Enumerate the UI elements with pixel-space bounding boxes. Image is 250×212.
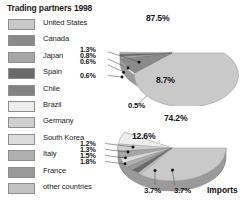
slice-imports-spain [133, 148, 173, 173]
legend-item-united-states: United States [8, 17, 108, 33]
legend-label-japan: Japan [43, 51, 63, 60]
legend-label-spain: Spain [43, 67, 62, 76]
legend-label-italy: Italy [43, 149, 56, 158]
legend-label-other-countries: other countries [43, 182, 92, 191]
legend-label-germany: Germany [43, 116, 74, 125]
legend-swatch-united-states [8, 19, 35, 30]
slice-imports-italy [124, 148, 172, 167]
slice-exports-japan [120, 53, 172, 59]
slice-exports-spain [120, 53, 172, 56]
leader-line-imports-6 [172, 170, 175, 185]
legend-swatch-japan [8, 52, 35, 63]
leader-dot-imports-5 [154, 169, 157, 172]
imports-callout-4: 1.8% [80, 157, 96, 166]
imports-second-percent: 12.6% [132, 131, 155, 141]
leader-dot-imports-6 [171, 169, 174, 172]
slice-exports-united-states [134, 53, 238, 107]
leader-dot-imports-3 [124, 156, 127, 159]
legend-item-chile: Chile [8, 83, 108, 99]
legend-swatch-spain [8, 68, 35, 79]
leader-dot-imports-1 [132, 146, 135, 149]
legend-swatch-brazil [8, 101, 35, 112]
legend-swatch-canada [8, 35, 35, 46]
slice-imports-south-korea [121, 148, 172, 163]
imports-pie-graphic [98, 93, 226, 191]
legend-swatch-south-korea [8, 134, 35, 145]
trading-partners-figure: Trading partners 1998 United States Cana… [0, 0, 250, 212]
legend-swatch-other-countries [8, 183, 35, 194]
imports-caption: Imports [207, 185, 238, 195]
legend-item-france: France [8, 165, 108, 181]
exports-second-percent: 8.7% [156, 75, 175, 85]
imports-top-callout: 0.5% [128, 101, 145, 110]
leader-dot-exports-1 [138, 61, 141, 64]
legend-item-other-countries: other countries [8, 181, 108, 197]
legend-label-brazil: Brazil [43, 100, 61, 109]
exports-pie-side [120, 53, 224, 94]
slice-exports-chile [120, 53, 172, 55]
leader-dot-imports-4 [124, 162, 127, 165]
slice-imports-other [138, 148, 172, 174]
legend-swatch-france [8, 167, 35, 178]
imports-bottom-callout-1: 3.7% [144, 186, 161, 195]
legend-item-brazil: Brazil [8, 99, 108, 115]
leader-dot-exports-4 [121, 76, 124, 79]
imports-bottom-callout-2: 3.7% [174, 186, 191, 195]
leader-dot-exports-3 [122, 71, 125, 74]
legend-item-germany: Germany [8, 115, 108, 131]
imports-main-percent: 74.2% [164, 113, 187, 123]
legend-swatch-germany [8, 117, 35, 128]
slice-exports-other [120, 52, 172, 53]
legend-label-united-states: United States [43, 18, 87, 27]
legend-label-south-korea: South Korea [43, 133, 84, 142]
legend-label-chile: Chile [43, 84, 60, 93]
slice-imports-germany [118, 144, 172, 151]
exports-main-percent: 87.5% [146, 13, 169, 23]
page-title: Trading partners 1998 [7, 3, 92, 13]
legend-swatch-chile [8, 85, 35, 96]
legend-swatch-italy [8, 150, 35, 161]
exports-callout-4: 0.6% [80, 71, 96, 80]
exports-callout-3: 0.6% [80, 57, 96, 66]
legend-label-canada: Canada [43, 34, 69, 43]
slice-imports-france [128, 148, 172, 170]
slice-imports-japan [118, 148, 172, 159]
legend-label-france: France [43, 166, 66, 175]
slice-exports-canada [121, 53, 172, 73]
leader-dot-imports-2 [127, 151, 130, 154]
leader-dot-exports-2 [127, 67, 130, 70]
